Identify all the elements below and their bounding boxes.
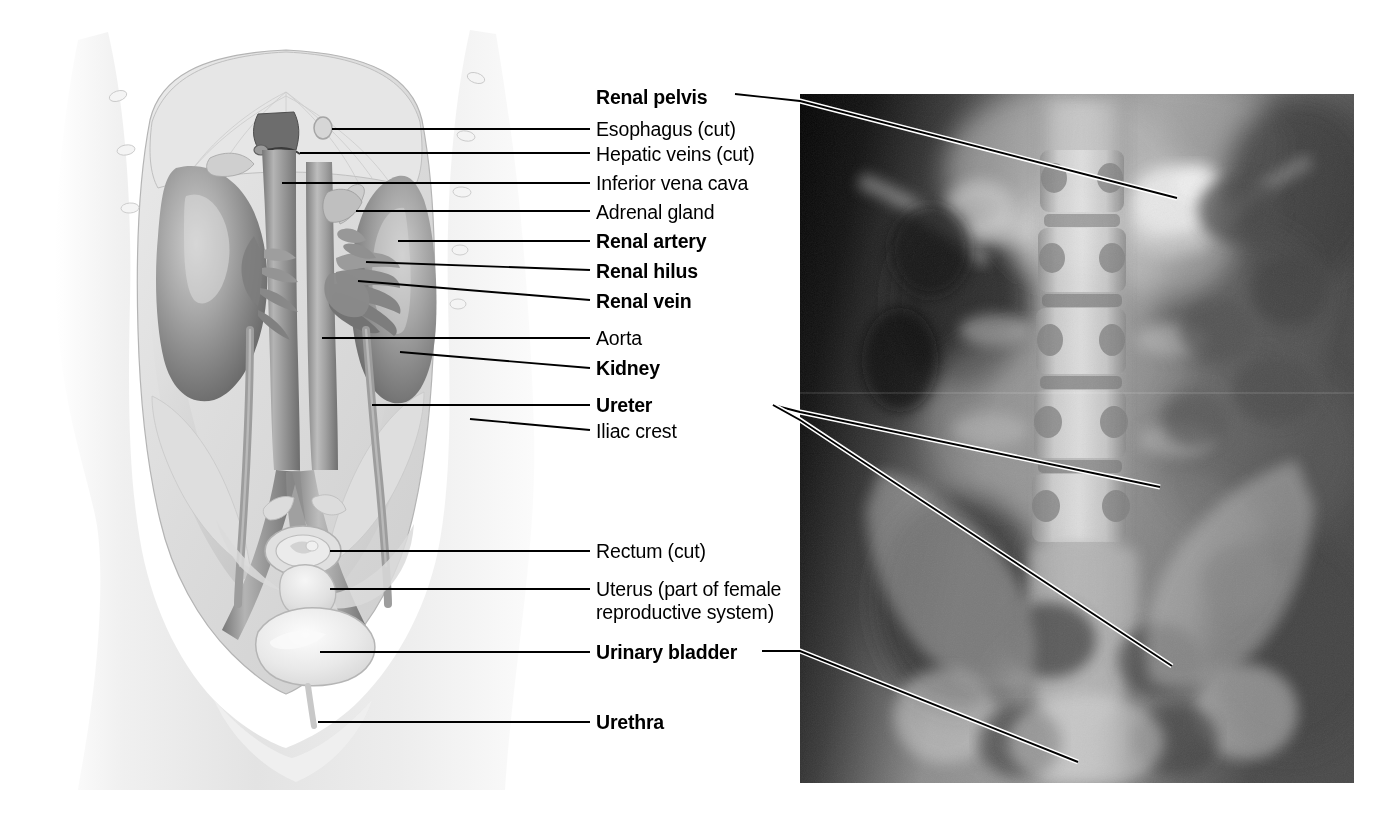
label-renal-pelvis: Renal pelvis xyxy=(596,86,707,108)
label-renal-artery: Renal artery xyxy=(596,230,706,252)
label-aorta: Aorta xyxy=(596,327,642,349)
label-uterus: Uterus (part of female reproductive syst… xyxy=(596,578,811,624)
label-hepatic-veins: Hepatic veins (cut) xyxy=(596,143,755,165)
label-esophagus: Esophagus (cut) xyxy=(596,118,736,140)
leader-renal-vein xyxy=(358,281,590,300)
label-inferior-vena-cava: Inferior vena cava xyxy=(596,172,748,194)
leader-iliac-crest xyxy=(470,419,590,430)
label-kidney: Kidney xyxy=(596,357,660,379)
leader-kidney xyxy=(400,352,590,368)
label-ureter: Ureter xyxy=(596,394,652,416)
label-adrenal-gland: Adrenal gland xyxy=(596,201,714,223)
leader-urinary-bladder-xray-halo xyxy=(762,651,1078,762)
leader-renal-pelvis-halo xyxy=(735,94,1177,198)
label-renal-vein: Renal vein xyxy=(596,290,692,312)
label-renal-hilus: Renal hilus xyxy=(596,260,698,282)
anatomy-plate: Renal pelvis Esophagus (cut) Hepatic vei… xyxy=(0,0,1392,821)
label-urinary-bladder: Urinary bladder xyxy=(596,641,737,663)
label-urethra: Urethra xyxy=(596,711,664,733)
label-iliac-crest: Iliac crest xyxy=(596,420,677,442)
leader-renal-hilus xyxy=(366,262,590,270)
label-rectum: Rectum (cut) xyxy=(596,540,706,562)
